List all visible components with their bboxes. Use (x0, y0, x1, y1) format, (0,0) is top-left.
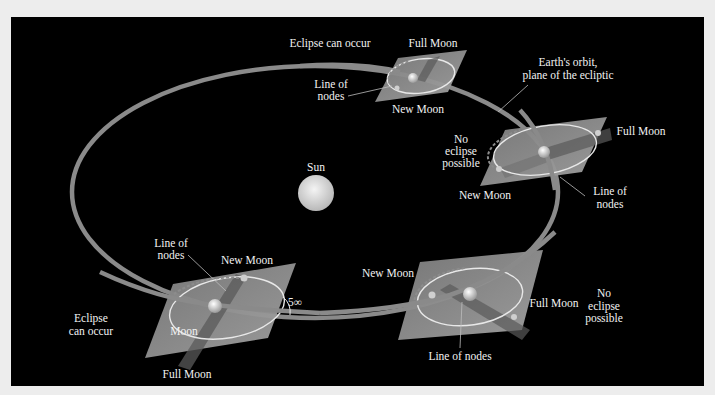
svg-text:Earth's orbit,: Earth's orbit, (539, 56, 598, 69)
svg-text:possible: possible (585, 312, 623, 325)
sun-label: Sun (307, 161, 325, 173)
svg-text:can occur: can occur (69, 325, 114, 337)
top-situation-label: Eclipse can occur (289, 37, 370, 50)
top-new-moon-label: New Moon (392, 103, 444, 115)
bottom-right-situation-label: No (597, 287, 611, 299)
bottom-left-moon-label: Moon (170, 325, 198, 337)
right-situation-label: No (454, 133, 468, 145)
bottom-right-new-moon-label: New Moon (362, 267, 414, 279)
svg-text:possible: possible (442, 157, 480, 170)
bottom-left-situation-label: Eclipse (74, 312, 108, 325)
bottom-left-new-moon-label: New Moon (221, 254, 273, 266)
right-full-moon-label: Full Moon (617, 125, 666, 137)
svg-text:nodes: nodes (158, 249, 185, 261)
moon-orbit-plane-top: Eclipse can occur Full Moon New Moon Lin… (289, 37, 467, 115)
svg-text:plane of the ecliptic: plane of the ecliptic (522, 69, 613, 82)
top-full-moon-label: Full Moon (409, 37, 458, 49)
svg-text:nodes: nodes (597, 198, 624, 210)
svg-text:nodes: nodes (318, 90, 345, 102)
eclipse-diagram: Sun Earth's orbit, plane of the ecliptic… (0, 0, 715, 395)
bottom-left-full-moon-label: Full Moon (163, 368, 212, 380)
top-nodes-label: Line of (314, 78, 348, 90)
right-nodes-label: Line of (593, 185, 627, 197)
bottom-right-full-moon-label: Full Moon (530, 297, 579, 309)
moon-orbit-plane-bottom-right: New Moon Full Moon No eclipse possible L… (320, 232, 623, 362)
bottom-right-nodes-label: Line of nodes (428, 350, 492, 362)
moon-orbit-plane-right: No eclipse possible Full Moon New Moon L… (442, 110, 666, 210)
angle-label: 5∞ (288, 296, 302, 308)
right-new-moon-label: New Moon (459, 189, 511, 201)
bottom-left-nodes-label: Line of (154, 237, 188, 249)
sun: Sun (298, 161, 334, 211)
orbit-label: Earth's orbit, plane of the ecliptic (498, 56, 614, 112)
